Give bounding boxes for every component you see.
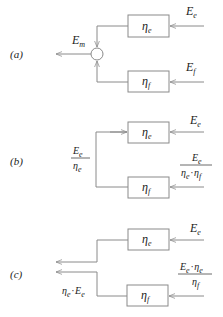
input-label-f: Ef bbox=[185, 60, 197, 76]
svg-text:ηe: ηe bbox=[73, 160, 82, 174]
output-arrow-top-c bbox=[56, 240, 128, 262]
branch-label-fraction: Ee ηe bbox=[71, 145, 90, 174]
summing-node bbox=[91, 48, 103, 60]
input-fraction-f-c: Ee·ηe ηf bbox=[178, 261, 212, 290]
svg-text:ηf: ηf bbox=[192, 276, 201, 290]
output-label-m: Em bbox=[71, 33, 85, 49]
svg-text:Ee: Ee bbox=[72, 145, 83, 159]
svg-text:ηe·ηf: ηe·ηf bbox=[181, 167, 203, 181]
input-label-e: Ee bbox=[189, 221, 201, 237]
input-fraction-f-b: Ee ηe·ηf bbox=[180, 152, 212, 181]
svg-text:Ee·ηe: Ee·ηe bbox=[179, 261, 203, 275]
panel-label-b: (b) bbox=[10, 155, 23, 168]
input-label-e: Ee bbox=[185, 4, 197, 20]
panel-label-a: (a) bbox=[10, 48, 23, 61]
panel-a: (a) ηe Ee ηf Ef Em bbox=[10, 4, 204, 92]
panel-b: (b) Ee ηe ηe Ee ηf Ee ηe·ηf bbox=[10, 113, 212, 198]
panel-label-c: (c) bbox=[10, 268, 23, 281]
connector-split-b bbox=[96, 132, 128, 187]
input-label-e: Ee bbox=[189, 113, 201, 129]
svg-text:Ee: Ee bbox=[191, 152, 202, 166]
block-diagram: (a) ηe Ee ηf Ef Em (b) Ee ηe bbox=[0, 0, 223, 317]
connector-bottom-a bbox=[97, 61, 128, 82]
output-label-c: ηe·Ee bbox=[62, 285, 85, 299]
panel-c: (c) ηe Ee ηf ηe·Ee Ee·ηe ηf bbox=[10, 221, 212, 306]
connector-top-a bbox=[97, 26, 128, 47]
